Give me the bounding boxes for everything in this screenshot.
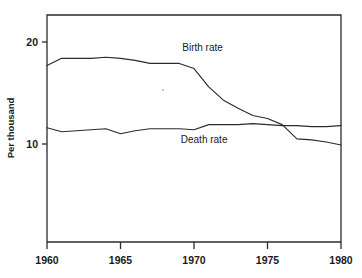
chart-canvas: 20 10 1960 1965 1970 1975 1980 Per thous… [0,0,362,278]
x-tick-label-1975: 1975 [256,254,280,266]
x-tick-label-1960: 1960 [35,254,59,266]
series-line-birth-rate [47,57,341,145]
paper-speck [162,89,164,91]
series-label-birth-rate: Birth rate [182,42,223,53]
series-label-death-rate: Death rate [181,134,228,145]
y-axis-title: Per thousand [5,97,16,158]
x-tick-label-1980: 1980 [329,254,353,266]
x-tick-label-1970: 1970 [182,254,206,266]
y-tick-label-10: 10 [26,138,38,150]
x-tick-label-1965: 1965 [109,254,133,266]
y-axis-ticks: 20 10 [26,36,47,150]
y-tick-label-20: 20 [26,36,38,48]
series-line-death-rate [47,124,341,134]
birth-death-rate-chart: 20 10 1960 1965 1970 1975 1980 Per thous… [0,0,362,278]
x-axis-ticks: 1960 1965 1970 1975 1980 [35,242,353,266]
